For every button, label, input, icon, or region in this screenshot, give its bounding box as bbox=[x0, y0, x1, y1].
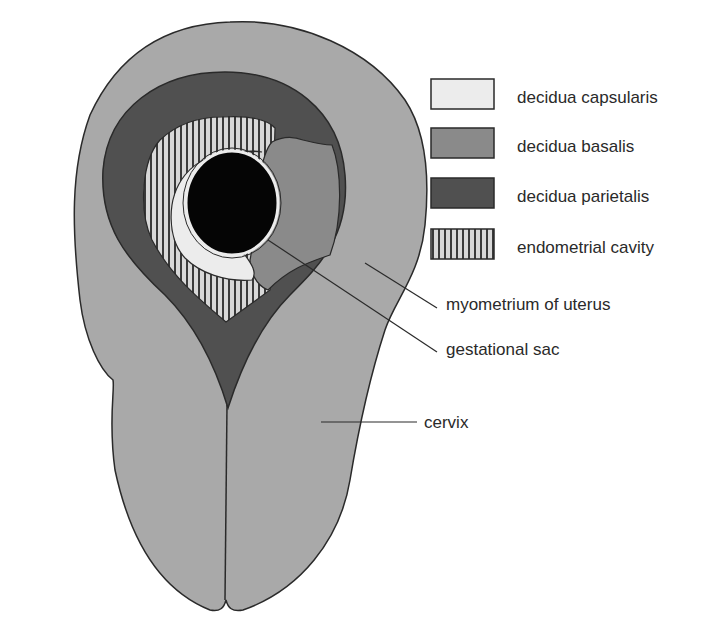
legend-swatch-endometrial-cavity bbox=[431, 229, 494, 259]
legend-label-endometrial-cavity: endometrial cavity bbox=[517, 238, 655, 257]
gestational-sac bbox=[186, 151, 278, 255]
legend-label-decidua-basalis: decidua basalis bbox=[517, 137, 634, 156]
legend-swatch-decidua-basalis bbox=[431, 128, 494, 158]
legend-swatch-decidua-capsularis bbox=[431, 79, 494, 109]
legend-label-decidua-capsularis: decidua capsularis bbox=[517, 88, 658, 107]
legend-label-decidua-parietalis: decidua parietalis bbox=[517, 187, 649, 206]
callout-label-cervix: cervix bbox=[424, 413, 469, 432]
uterus-diagram: decidua capsularis decidua basalis decid… bbox=[0, 0, 723, 631]
legend: decidua capsularis decidua basalis decid… bbox=[431, 79, 658, 259]
callout-label-myometrium: myometrium of uterus bbox=[446, 295, 610, 314]
legend-swatch-decidua-parietalis bbox=[431, 178, 494, 208]
callout-label-gestational-sac: gestational sac bbox=[446, 340, 560, 359]
